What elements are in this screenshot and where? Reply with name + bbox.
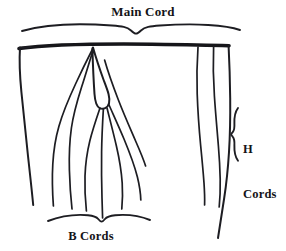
h-cords-brace [231, 108, 238, 161]
cord-loop [92, 48, 109, 109]
h-cords-group [197, 47, 220, 207]
b-cords-brace [48, 215, 150, 222]
right-edge-cord [218, 46, 230, 238]
b-cords-group [52, 49, 145, 218]
b-cords-label: B Cords [0, 229, 182, 244]
left-edge-cord [19, 47, 33, 205]
main-cord-brace [22, 24, 240, 33]
h-cords-label-line1: H [243, 142, 277, 157]
main-cord-label: Main Cord [0, 4, 286, 20]
figure-root: Main Cord B Cords H Cords [0, 0, 286, 251]
h-cords-label-line2: Cords [243, 187, 277, 202]
h-cords-label: H Cords [243, 112, 277, 232]
